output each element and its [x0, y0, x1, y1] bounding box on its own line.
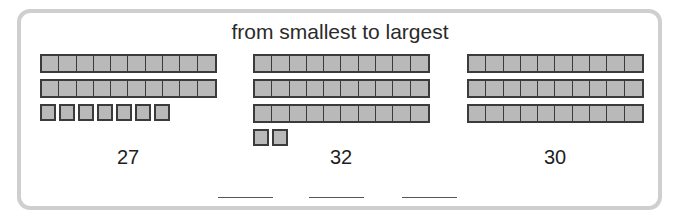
rod-cell [128, 56, 145, 71]
one-unit-cube [40, 104, 56, 121]
rod-cell [324, 56, 341, 71]
rod-cell [469, 106, 486, 121]
one-unit-cube [272, 129, 288, 146]
rod-cell [411, 81, 428, 96]
one-unit-cube [116, 104, 132, 121]
rod-cell [324, 106, 341, 121]
rod-cell [521, 56, 538, 71]
ten-rod [467, 104, 644, 123]
rod-cell [255, 106, 272, 121]
ten-rod [253, 79, 430, 98]
rod-cell [469, 81, 486, 96]
rod-cell [128, 81, 145, 96]
base-ten-group-1 [40, 54, 217, 127]
rod-cell [94, 56, 111, 71]
one-unit-cube [253, 129, 269, 146]
answer-blank-1[interactable] [218, 197, 273, 198]
rod-cell [538, 56, 555, 71]
rod-cell [555, 56, 572, 71]
rod-cell [111, 81, 128, 96]
rod-cell [359, 81, 376, 96]
rod-cell [573, 81, 590, 96]
base-ten-group-2 [253, 54, 430, 152]
rod-cell [521, 106, 538, 121]
rod-cell [94, 81, 111, 96]
rod-cell [625, 81, 642, 96]
rod-cell [272, 56, 289, 71]
ten-rod [40, 79, 217, 98]
rod-cell [393, 56, 410, 71]
rod-cell [590, 106, 607, 121]
rod-cell [324, 81, 341, 96]
rod-cell [290, 56, 307, 71]
answer-blank-2[interactable] [309, 197, 364, 198]
ten-rod [467, 79, 644, 98]
number-label-3: 30 [515, 146, 595, 169]
rod-cell [607, 56, 624, 71]
ten-rod [467, 54, 644, 73]
rod-cell [573, 56, 590, 71]
rod-cell [411, 56, 428, 71]
rod-cell [573, 106, 590, 121]
rod-cell [555, 106, 572, 121]
ones-row [253, 129, 430, 146]
number-label-1: 27 [88, 146, 168, 169]
rod-cell [393, 106, 410, 121]
rod-cell [625, 106, 642, 121]
instruction-text: from smallest to largest [0, 20, 680, 44]
rod-cell [290, 81, 307, 96]
rod-cell [272, 106, 289, 121]
rod-cell [376, 106, 393, 121]
one-unit-cube [97, 104, 113, 121]
rod-cell [307, 56, 324, 71]
rod-cell [504, 106, 521, 121]
rod-cell [180, 56, 197, 71]
rod-cell [290, 106, 307, 121]
rod-cell [376, 81, 393, 96]
rod-cell [255, 81, 272, 96]
answer-blank-3[interactable] [402, 197, 457, 198]
rod-cell [486, 106, 503, 121]
base-ten-group-3 [467, 54, 644, 129]
rod-cell [272, 81, 289, 96]
rod-cell [625, 56, 642, 71]
ten-rod [40, 54, 217, 73]
one-unit-cube [154, 104, 170, 121]
rod-cell [146, 56, 163, 71]
rod-cell [77, 56, 94, 71]
one-unit-cube [135, 104, 151, 121]
rod-cell [42, 56, 59, 71]
rod-cell [341, 106, 358, 121]
ten-rod [253, 104, 430, 123]
rod-cell [376, 56, 393, 71]
rod-cell [486, 81, 503, 96]
rod-cell [255, 56, 272, 71]
rod-cell [411, 106, 428, 121]
rod-cell [307, 106, 324, 121]
ones-row [40, 104, 217, 121]
rod-cell [307, 81, 324, 96]
rod-cell [359, 56, 376, 71]
rod-cell [590, 81, 607, 96]
number-label-2: 32 [301, 146, 381, 169]
rod-cell [163, 81, 180, 96]
rod-cell [469, 56, 486, 71]
rod-cell [146, 81, 163, 96]
one-unit-cube [78, 104, 94, 121]
rod-cell [538, 106, 555, 121]
rod-cell [538, 81, 555, 96]
rod-cell [77, 81, 94, 96]
rod-cell [111, 56, 128, 71]
rod-cell [341, 81, 358, 96]
rod-cell [486, 56, 503, 71]
rod-cell [163, 56, 180, 71]
rod-cell [42, 81, 59, 96]
rod-cell [393, 81, 410, 96]
ten-rod [253, 54, 430, 73]
rod-cell [180, 81, 197, 96]
rod-cell [59, 56, 76, 71]
rod-cell [198, 81, 215, 96]
rod-cell [555, 81, 572, 96]
rod-cell [521, 81, 538, 96]
rod-cell [59, 81, 76, 96]
